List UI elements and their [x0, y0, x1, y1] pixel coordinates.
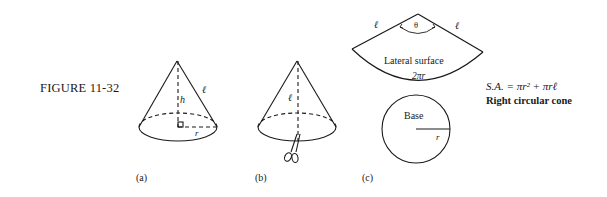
subfigure-label-a: (a) [136, 172, 147, 183]
base-label: Base [404, 110, 424, 121]
base-r-label: r [436, 132, 440, 142]
cone-a [139, 61, 217, 141]
cone-a-left-edge [139, 61, 177, 127]
theta-label: θ [414, 20, 418, 30]
cone-b-l-label: ℓ [288, 92, 292, 103]
sector-right-edge [418, 14, 483, 52]
surface-area-formula: S.A. = πr² + πrℓ [486, 80, 557, 92]
subfigure-label-b: (b) [255, 172, 267, 183]
angle-arrow-right [432, 24, 435, 28]
cone-a-l-label: ℓ [202, 84, 206, 95]
cone-a-r-label: r [195, 128, 199, 138]
sector-left-l-label: ℓ [374, 19, 378, 30]
cone-a-base-front [139, 127, 217, 141]
right-angle-marker [178, 122, 183, 127]
angle-arrow-left [400, 24, 403, 28]
cone-a-h-label: h [180, 94, 185, 105]
lateral-surface-label: Lateral surface [384, 55, 444, 66]
base-circle [382, 95, 450, 163]
figure-caption: Right circular cone [486, 95, 572, 106]
cone-b-base-back [258, 113, 336, 127]
sector-right-l-label: ℓ [455, 20, 459, 31]
cone-b [258, 61, 336, 141]
arc-length-label: 2πr [412, 71, 426, 81]
subfigure-label-c: (c) [362, 172, 373, 183]
cone-b-right-edge [297, 61, 336, 127]
